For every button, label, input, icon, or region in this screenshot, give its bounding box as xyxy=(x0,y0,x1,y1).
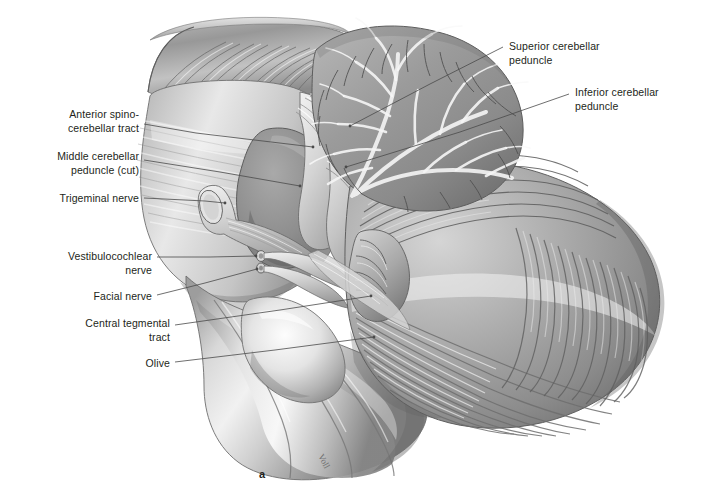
leader-endpoint-facial-nerve xyxy=(256,268,259,271)
label-central-tegmental-tract: Central tegmentaltract xyxy=(85,317,170,344)
label-line: Inferior cerebellar xyxy=(575,86,659,100)
label-trigeminal-nerve: Trigeminal nerve xyxy=(60,192,140,206)
anatomy-figure: Voll Anterior spino-cerebellar tractMidd… xyxy=(0,0,701,503)
label-line: Vestibulocochlear xyxy=(68,250,152,264)
label-superior-cerebellar-peduncle: Superior cerebellarpeduncle xyxy=(509,40,600,67)
leader-endpoint-olive xyxy=(373,336,376,339)
leader-anterior-spinocerebellar-tract xyxy=(144,124,313,147)
label-line: cerebellar tract xyxy=(68,122,139,136)
panel-letter-a: a xyxy=(259,468,265,480)
label-line: Trigeminal nerve xyxy=(60,192,140,206)
leader-olive xyxy=(175,337,374,362)
leader-endpoint-anterior-spinocerebellar-tract xyxy=(312,146,315,149)
leader-central-tegmental-tract xyxy=(175,296,371,325)
leader-endpoint-central-tegmental-tract xyxy=(370,295,373,298)
leader-trigeminal-nerve xyxy=(144,198,225,203)
leader-endpoint-vestibulocochlear-nerve xyxy=(255,255,258,258)
leader-inferior-cerebellar-peduncle xyxy=(346,94,569,167)
label-inferior-cerebellar-peduncle: Inferior cerebellarpeduncle xyxy=(575,86,659,113)
label-facial-nerve: Facial nerve xyxy=(94,290,152,304)
label-olive: Olive xyxy=(146,357,170,371)
label-middle-cerebellar-peduncle-cut: Middle cerebellarpeduncle (cut) xyxy=(57,150,139,177)
leader-endpoint-middle-cerebellar-peduncle-cut xyxy=(299,185,302,188)
label-line: peduncle xyxy=(509,54,600,68)
leader-endpoint-trigeminal-nerve xyxy=(224,202,227,205)
label-line: peduncle xyxy=(575,100,659,114)
label-line: tract xyxy=(85,331,170,345)
leader-middle-cerebellar-peduncle-cut xyxy=(144,160,300,186)
label-anterior-spinocerebellar-tract: Anterior spino-cerebellar tract xyxy=(68,108,139,135)
label-vestibulocochlear-nerve: Vestibulocochlearnerve xyxy=(68,250,152,277)
leader-vestibulocochlear-nerve xyxy=(157,256,256,257)
label-line: nerve xyxy=(68,264,152,278)
leader-endpoint-inferior-cerebellar-peduncle xyxy=(345,166,348,169)
label-line: Olive xyxy=(146,357,170,371)
leader-endpoint-superior-cerebellar-peduncle xyxy=(349,125,352,128)
label-line: Superior cerebellar xyxy=(509,40,600,54)
leader-superior-cerebellar-peduncle xyxy=(350,47,503,126)
label-line: peduncle (cut) xyxy=(57,164,139,178)
label-line: Middle cerebellar xyxy=(57,150,139,164)
leader-facial-nerve xyxy=(157,269,257,295)
label-line: Central tegmental xyxy=(85,317,170,331)
label-line: Anterior spino- xyxy=(68,108,139,122)
label-line: Facial nerve xyxy=(94,290,152,304)
